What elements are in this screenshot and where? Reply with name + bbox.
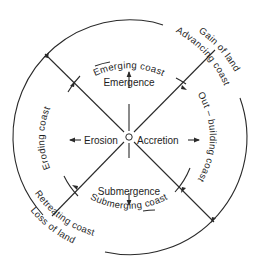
emergence-label: Emergence — [103, 77, 155, 88]
accretion-label: Accretion — [137, 135, 179, 146]
erosion-group: Erosion — [70, 135, 118, 146]
center-marker — [126, 134, 132, 140]
arrowhead-icon — [72, 185, 78, 190]
arrowhead-icon — [181, 85, 187, 90]
out-building-coast-label: Out – building coast — [196, 90, 219, 185]
coastal-classification-diagram: Emergence Submergence Erosion Accretion … — [0, 0, 259, 269]
accretion-group: Accretion — [137, 135, 199, 146]
eroding-coast-label: Eroding coast — [35, 104, 52, 171]
erosion-label: Erosion — [84, 135, 118, 146]
submergence-label: Submergence — [98, 186, 161, 197]
